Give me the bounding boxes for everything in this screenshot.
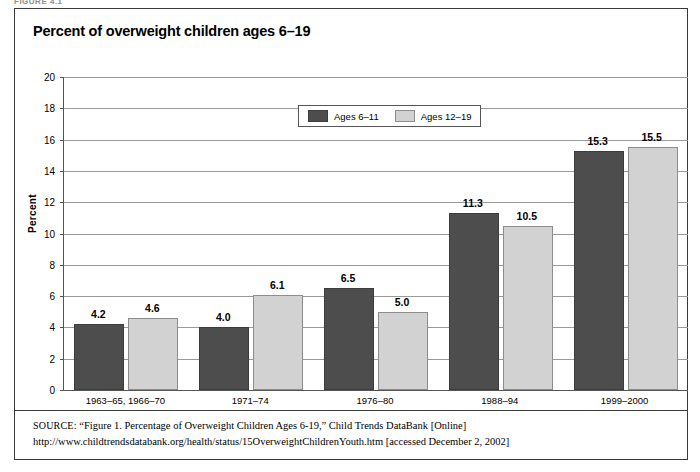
bar [378,312,428,390]
x-tick-label: 1976–80 [357,395,394,406]
y-tick-label: 0 [31,385,55,396]
bar [253,295,303,390]
legend-item: Ages 6–11 [308,110,379,122]
y-tick-mark [60,296,64,297]
bar [574,151,624,390]
legend-item: Ages 12–19 [395,110,472,122]
y-tick-mark [60,202,64,203]
bar-value-label: 10.5 [517,210,537,222]
source-note: SOURCE: “Figure 1. Percentage of Overwei… [33,418,673,449]
x-tick-label: 1971–74 [232,395,269,406]
y-tick-mark [60,265,64,266]
y-tick-label: 16 [31,134,55,145]
page-title: Percent of overweight children ages 6–19 [33,23,310,39]
bar [503,226,553,390]
x-tick-label: 1988–94 [481,395,518,406]
y-tick-mark [60,327,64,328]
bar-value-label: 6.1 [270,279,285,291]
x-tick-label: 1999–2000 [601,395,649,406]
y-tick-label: 4 [31,322,55,333]
bar [199,327,249,390]
source-text: “Figure 1. Percentage of Overweight Chil… [33,420,509,447]
y-tick-mark [60,390,64,391]
bar-value-label: 4.6 [145,302,160,314]
bar [628,147,678,390]
bar-value-label: 15.3 [587,135,607,147]
bar-value-label: 15.5 [641,131,661,143]
bar [74,324,124,390]
legend-label: Ages 6–11 [334,111,379,122]
y-tick-mark [60,140,64,141]
y-tick-mark [60,108,64,109]
bar-value-label: 5.0 [395,296,410,308]
bar-value-label: 6.5 [341,272,356,284]
y-tick-label: 18 [31,103,55,114]
legend-swatch-icon [308,110,328,122]
y-tick-label: 12 [31,197,55,208]
bar [324,288,374,390]
figure-frame: Percent of overweight children ages 6–19… [14,8,688,460]
y-tick-label: 8 [31,259,55,270]
bar-value-label: 4.2 [91,308,106,320]
x-tick-label: 1963–65, 1966–70 [86,395,165,406]
y-tick-mark [60,234,64,235]
legend-label: Ages 12–19 [421,111,472,122]
divider [15,410,687,411]
y-tick-label: 2 [31,353,55,364]
chart-legend: Ages 6–11Ages 12–19 [298,105,481,127]
bar-value-label: 11.3 [463,197,483,209]
y-tick-label: 20 [31,72,55,83]
y-tick-mark [60,359,64,360]
bar [128,318,178,390]
legend-swatch-icon [395,110,415,122]
bar [449,213,499,390]
source-label: SOURCE: [33,420,77,431]
figure-number: FIGURE 4.1 [14,0,63,6]
y-tick-mark [60,77,64,78]
y-tick-label: 10 [31,228,55,239]
gridline [64,77,688,78]
y-tick-mark [60,171,64,172]
y-tick-label: 6 [31,291,55,302]
bar-value-label: 4.0 [216,311,231,323]
y-tick-label: 14 [31,165,55,176]
